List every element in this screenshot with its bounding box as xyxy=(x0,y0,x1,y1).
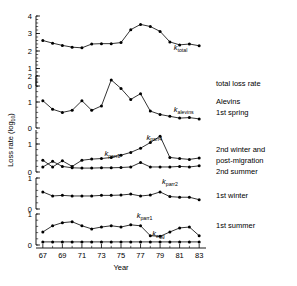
panel-parr1-egg-ytick-label: 1 xyxy=(28,210,32,219)
k_parr4-point xyxy=(198,157,201,160)
k_parr2-point xyxy=(188,196,191,199)
k_parr4-point xyxy=(188,158,191,161)
k_parr4-point xyxy=(129,151,132,154)
k_parr2-point xyxy=(51,194,54,197)
k_alevins-point xyxy=(159,113,162,116)
panel-total-ytick-label: 4 xyxy=(28,12,32,21)
k_parr4-point xyxy=(61,159,64,162)
k_alevins-point xyxy=(110,78,113,81)
panel-parr1-egg-description: 1st summer xyxy=(216,221,256,230)
k_egg-point xyxy=(168,240,171,243)
k_parr3-point xyxy=(71,166,74,169)
k_alevins-point xyxy=(178,117,181,120)
k_total-point xyxy=(100,42,103,45)
k_alevins-point xyxy=(168,115,171,118)
panel-alevins: 012kalevins xyxy=(28,72,201,133)
k_parr1-point xyxy=(90,227,93,230)
k_egg-point xyxy=(129,240,132,243)
k_alevins-point xyxy=(61,111,64,114)
k_alevins-point xyxy=(51,108,54,111)
k_total-point xyxy=(188,43,191,46)
k_parr3-point xyxy=(188,165,191,168)
k_parr1-tag: kparr1 xyxy=(137,211,153,221)
x-tick-label: 69 xyxy=(58,251,66,260)
k_egg-point xyxy=(110,240,113,243)
k_total-point xyxy=(90,43,93,46)
k_parr4-tag: kparr4 xyxy=(146,133,162,143)
k_egg-point xyxy=(188,240,191,243)
k_parr1-point xyxy=(80,224,83,227)
k_alevins-point xyxy=(120,87,123,90)
k_parr3-point xyxy=(51,160,54,163)
k_alevins-point xyxy=(198,117,201,120)
panel-alevins-ytick-label: 0 xyxy=(28,124,32,133)
k_parr2-point xyxy=(100,194,103,197)
k_parr4-point xyxy=(139,147,142,150)
k_egg-point xyxy=(139,240,142,243)
k_parr3-point xyxy=(168,165,171,168)
k_total-point xyxy=(80,46,83,49)
panel-parr34-description: 2nd winter and xyxy=(216,145,265,154)
panel-parr1-egg: 01kparr1kegg xyxy=(28,210,201,250)
x-tick-label: 79 xyxy=(156,251,164,260)
k_parr2-point xyxy=(149,194,152,197)
k_parr3-tag: kparr3 xyxy=(104,149,120,159)
panel-alevins-ytick-label: 2 xyxy=(28,72,32,81)
x-tick-label: 77 xyxy=(136,251,144,260)
panel-parr1-egg-ytick-label: 0 xyxy=(28,241,32,250)
k_parr4-tag-sub: parr4 xyxy=(150,136,162,142)
k_parr2-point xyxy=(41,190,44,193)
k_total-point xyxy=(71,46,74,49)
k_parr1-point xyxy=(61,221,64,224)
k_total-point xyxy=(41,39,44,42)
panel-parr2: 01kparr2 xyxy=(28,174,201,214)
k_parr2-point xyxy=(110,194,113,197)
x-axis-title: Year xyxy=(113,263,129,272)
k_parr3-point xyxy=(129,165,132,168)
k_alevins-point xyxy=(188,116,191,119)
k_alevins-point xyxy=(80,99,83,102)
k_parr3-point xyxy=(90,167,93,170)
k_parr1-point xyxy=(129,223,132,226)
k_parr4-line xyxy=(43,136,199,167)
k_egg-point xyxy=(149,240,152,243)
k_total-point xyxy=(168,40,171,43)
x-tick-label: 71 xyxy=(78,251,86,260)
panel-parr34: 01kparr4kparr3 xyxy=(28,130,201,177)
k_parr1-point xyxy=(188,226,191,229)
k_parr2-tag-sub: parr2 xyxy=(166,181,178,187)
k_parr1-point xyxy=(168,230,171,233)
panel-parr2-ytick-label: 1 xyxy=(28,174,32,183)
k_parr3-point xyxy=(178,165,181,168)
k_egg-point xyxy=(120,240,123,243)
k_parr3-point xyxy=(149,165,152,168)
k_parr3-point xyxy=(139,161,142,164)
k_total-point xyxy=(51,42,54,45)
k_parr4-point xyxy=(51,165,54,168)
loss-rate-multipanel-chart: 01234ktotaltotal loss rate012kalevinsAle… xyxy=(0,0,297,286)
panel-total-ytick-label: 2 xyxy=(28,47,32,56)
k_parr2-point xyxy=(168,195,171,198)
k_total-point xyxy=(139,23,142,26)
k_alevins-point xyxy=(100,104,103,107)
panel-alevins-description: Alevins xyxy=(216,97,240,106)
k_egg-point xyxy=(100,240,103,243)
y-axis-title-base: Loss rate (log xyxy=(6,121,15,166)
k_parr1-point xyxy=(100,226,103,229)
k_parr2-point xyxy=(71,194,74,197)
x-tick-label: 83 xyxy=(195,251,203,260)
k_parr3-tag-sub: parr3 xyxy=(108,153,120,159)
panel-total-description: total loss rate xyxy=(216,79,261,88)
k_parr4-point xyxy=(178,157,181,160)
k_egg-point xyxy=(61,240,64,243)
k_parr1-point xyxy=(71,220,74,223)
k_parr3-point xyxy=(100,166,103,169)
k_total-point xyxy=(110,42,113,45)
k_parr2-point xyxy=(198,198,201,201)
k_parr1-point xyxy=(120,226,123,229)
k_egg-point xyxy=(51,240,54,243)
k_egg-tag-sub: egg xyxy=(156,233,165,239)
k_egg-point xyxy=(71,240,74,243)
k_parr2-point xyxy=(159,190,162,193)
panel-alevins-description: 1st spring xyxy=(216,108,249,117)
